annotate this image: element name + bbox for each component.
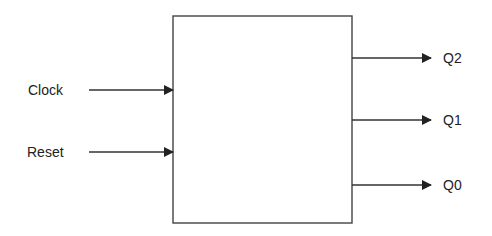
q2-label: Q2	[443, 50, 462, 66]
counter-block	[173, 16, 352, 223]
reset-label: Reset	[27, 144, 64, 160]
q0-label: Q0	[443, 177, 462, 193]
clock-label: Clock	[28, 82, 63, 98]
q1-label: Q1	[443, 112, 462, 128]
diagram-canvas	[0, 0, 492, 236]
